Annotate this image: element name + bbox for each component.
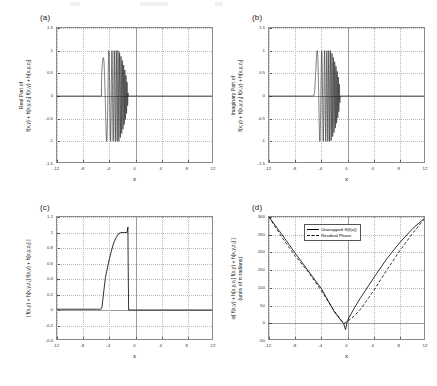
- y-tick-label: 150: [249, 267, 265, 272]
- x-tick-label: -4: [313, 166, 327, 171]
- y-tick-label: 0: [37, 307, 53, 312]
- top-artifact-strip: [70, 2, 80, 6]
- x-tick-label: 12: [418, 166, 432, 171]
- y-tick-label: 1: [249, 47, 265, 52]
- data-series-solid: [57, 227, 213, 310]
- panel-tag-d: (d): [252, 203, 262, 212]
- y-tick-label: 50: [249, 302, 265, 307]
- x-tick-label: -12: [261, 166, 275, 171]
- y-tick-label: 1.2: [37, 214, 53, 219]
- x-tick-label: 12: [206, 343, 220, 348]
- legend-entry: Residual Phase: [307, 233, 357, 239]
- x-axis-label-c: x: [56, 353, 213, 359]
- plot-area-a: [56, 27, 213, 163]
- x-tick-label: -12: [261, 343, 275, 348]
- y-tick-label: -0.2: [37, 322, 53, 327]
- x-tick-label: -8: [287, 166, 301, 171]
- x-tick-label: 4: [154, 343, 168, 348]
- y-axis-label-line2: f(x,y) + h[x,y,z₁] f(x,y) + h[x,y,z₂]: [25, 59, 32, 131]
- y-tick-label: -0.5: [37, 115, 53, 120]
- x-tick-label: 4: [154, 166, 168, 171]
- x-tick-label: -12: [49, 166, 63, 171]
- x-axis-label-a: x: [56, 176, 213, 182]
- x-tick-label: 12: [418, 343, 432, 348]
- y-axis-label-line1: Real Part of: [18, 81, 24, 108]
- y-axis-label-c: | f(x,y) + h[x,y,z₁] f(x,y) + h[x,y,z₂] …: [25, 239, 32, 317]
- panel-tag-b: (b): [252, 13, 262, 22]
- plot-area-b: [268, 27, 425, 163]
- y-tick-label: 1.5: [249, 25, 265, 30]
- x-tick-label: -4: [313, 343, 327, 348]
- legend-label: Residual Phase: [321, 233, 351, 239]
- top-artifact-strip: [140, 2, 168, 6]
- y-tick-label: 250: [249, 231, 265, 236]
- y-tick-label: 1: [37, 47, 53, 52]
- x-tick-label: 4: [366, 166, 380, 171]
- x-tick-label: 0: [128, 343, 142, 348]
- y-tick-label: 1.5: [37, 25, 53, 30]
- y-tick-label: 0.8: [37, 245, 53, 250]
- y-axis-label-line2: f(x,y) + h[x,y,z₁] f(x,y) + h[x,y,z₂]: [237, 59, 244, 131]
- data-series-solid: [269, 51, 425, 142]
- y-tick-label: -1: [249, 138, 265, 143]
- x-tick-label: -8: [287, 343, 301, 348]
- x-tick-label: 8: [392, 343, 406, 348]
- data-series-solid: [57, 51, 213, 142]
- x-tick-label: 8: [392, 166, 406, 171]
- x-tick-label: -4: [101, 343, 115, 348]
- x-tick-label: -8: [75, 343, 89, 348]
- y-tick-label: 1: [37, 229, 53, 234]
- y-tick-label: 0.4: [37, 276, 53, 281]
- panel-tag-a: (a): [40, 13, 50, 22]
- y-tick-label: 0.6: [37, 260, 53, 265]
- x-tick-label: -12: [49, 343, 63, 348]
- x-tick-label: 0: [340, 166, 354, 171]
- y-tick-label: -1: [37, 138, 53, 143]
- x-tick-label: 4: [366, 343, 380, 348]
- plot-legend: Unwrapped Φ(f(x))Residual Phase: [304, 224, 361, 241]
- panel-tag-c: (c): [40, 203, 50, 212]
- legend-key-dashed: [307, 235, 319, 236]
- plot-curves-b: [269, 28, 425, 163]
- y-axis-label-line1: | f(x,y) + h[x,y,z₁] f(x,y) + h[x,y,z₂] …: [25, 239, 31, 317]
- y-axis-label-d: φ{ f(x,y) + h[x,y,z₁] f(x,y) + h[x,y,z₂]…: [230, 237, 243, 319]
- y-tick-label: 0.5: [249, 70, 265, 75]
- legend-key-solid: [307, 229, 319, 230]
- y-axis-label-b: Imaginary Part off(x,y) + h[x,y,z₁] f(x,…: [230, 59, 243, 131]
- y-tick-label: 100: [249, 284, 265, 289]
- x-tick-label: 0: [128, 166, 142, 171]
- figure-canvas: (a)1.510.50-0.5-1-1.5-12-8-404812Real Pa…: [0, 0, 437, 386]
- y-tick-label: 0: [37, 93, 53, 98]
- y-axis-label-a: Real Part off(x,y) + h[x,y,z₁] f(x,y) + …: [18, 59, 31, 131]
- x-tick-label: 8: [180, 166, 194, 171]
- plot-area-c: [56, 216, 213, 340]
- y-tick-label: 0: [249, 93, 265, 98]
- y-tick-label: 300: [249, 214, 265, 219]
- plot-curves-a: [57, 28, 213, 163]
- x-tick-label: 8: [180, 343, 194, 348]
- x-tick-label: -4: [101, 166, 115, 171]
- top-artifact-strip: [215, 2, 223, 6]
- y-tick-label: 0.2: [37, 291, 53, 296]
- x-tick-label: -8: [75, 166, 89, 171]
- y-tick-label: -0.5: [249, 115, 265, 120]
- y-tick-label: 0.5: [37, 70, 53, 75]
- x-tick-label: 0: [340, 343, 354, 348]
- x-tick-label: 12: [206, 166, 220, 171]
- x-axis-label-d: x: [268, 353, 425, 359]
- y-axis-label-line1: φ{ f(x,y) + h[x,y,z₁] f(x,y) + h[x,y,z₂]…: [230, 237, 236, 319]
- y-tick-label: 200: [249, 249, 265, 254]
- y-tick-label: 0: [249, 320, 265, 325]
- plot-curves-c: [57, 217, 213, 340]
- y-axis-label-line2: (units of π radians): [237, 237, 244, 319]
- y-axis-label-line1: Imaginary Part of: [230, 75, 236, 115]
- x-axis-label-b: x: [268, 176, 425, 182]
